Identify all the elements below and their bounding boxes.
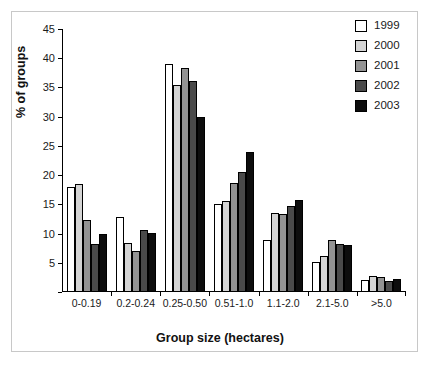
bar [287,206,295,292]
y-tick-mark [58,146,62,147]
bar [148,233,156,292]
legend-swatch [355,40,367,52]
legend: 19992000200120022003 [355,20,400,112]
bar [197,117,205,292]
x-tick-label: 0-0.19 [72,298,102,309]
x-axis-title: Group size (hectares) [0,331,440,345]
bar [238,172,246,292]
legend-label: 2001 [374,60,400,72]
bar [165,64,173,292]
y-axis-line [62,29,63,292]
bar [328,240,336,292]
legend-label: 2000 [374,40,400,52]
bar [116,217,124,292]
legend-label: 2003 [374,100,400,112]
bar [263,240,271,292]
y-tick-label: 45 [43,24,55,35]
bar [312,262,320,292]
x-tick-mark [111,292,112,296]
x-tick-mark [308,292,309,296]
x-tick-label: 0.2-0.24 [116,298,155,309]
bar [246,152,254,292]
bar [336,244,344,293]
legend-item-2003[interactable]: 2003 [355,100,400,112]
bar [75,184,83,292]
legend-label: 1999 [374,20,400,32]
bar-chart-figure: 51015202530354045 0-0.190.2-0.240.25-0.5… [0,0,440,366]
x-tick-label: 1.1-2.0 [267,298,300,309]
y-tick-label: 15 [43,199,55,210]
y-tick-mark [58,58,62,59]
y-tick-label: 5 [49,257,55,268]
bar [271,213,279,292]
legend-swatch [355,60,367,72]
bar [344,245,352,292]
y-tick-label: 30 [43,111,55,122]
bar [189,81,197,292]
y-tick-mark [58,292,62,293]
x-tick-mark [405,292,406,296]
bar [214,204,222,292]
bar-group [116,29,156,292]
y-tick-mark [58,29,62,30]
legend-swatch [355,100,367,112]
x-tick-mark [209,292,210,296]
bar-group [67,29,107,292]
y-tick-label: 20 [43,170,55,181]
y-tick-label: 40 [43,53,55,64]
bar [99,234,107,292]
bar [385,281,393,292]
bar-group [165,29,205,292]
y-tick-mark [58,87,62,88]
legend-label: 2002 [374,80,400,92]
bar [91,244,99,292]
bar [173,85,181,292]
bar [124,243,132,292]
y-tick-mark [58,117,62,118]
bar [279,214,287,292]
y-tick-mark [58,204,62,205]
bar [369,276,377,292]
legend-item-2001[interactable]: 2001 [355,60,400,72]
y-tick-label: 25 [43,140,55,151]
bar [83,220,91,292]
bar-group [214,29,254,292]
legend-swatch [355,80,367,92]
bar-group [312,29,352,292]
bar [361,280,369,292]
y-tick-mark [58,263,62,264]
legend-item-2000[interactable]: 2000 [355,40,400,52]
legend-swatch [355,20,367,32]
x-tick-label: 0.51-1.0 [215,298,254,309]
x-tick-label: 0.25-0.50 [163,298,207,309]
x-tick-label: 2.1-5.0 [316,298,349,309]
legend-item-1999[interactable]: 1999 [355,20,400,32]
bar [140,230,148,292]
y-tick-label: 35 [43,82,55,93]
x-tick-mark [357,292,358,296]
y-tick-label: 10 [43,228,55,239]
y-axis-title: % of groups [14,46,28,118]
x-tick-mark [160,292,161,296]
bar [393,279,401,292]
x-tick-label: >5.0 [371,298,392,309]
bar [377,277,385,292]
bar [230,183,238,292]
y-tick-mark [58,234,62,235]
bar [222,201,230,292]
bar-group [263,29,303,292]
y-tick-mark [58,175,62,176]
legend-item-2002[interactable]: 2002 [355,80,400,92]
x-tick-mark [259,292,260,296]
bar [181,68,189,292]
bar [132,251,140,292]
bar [67,187,75,292]
bar [295,200,303,292]
bar [320,256,328,292]
